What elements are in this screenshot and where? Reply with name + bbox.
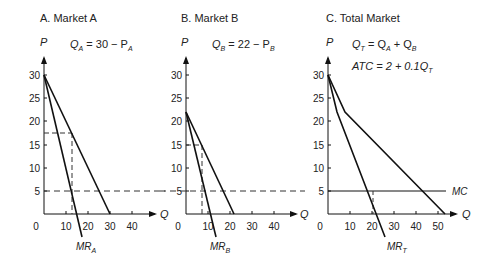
mr-curve-a <box>44 75 82 237</box>
mr-curve-b <box>186 112 216 237</box>
svg-text:10: 10 <box>29 163 41 174</box>
x-axis-label: Q <box>462 208 471 220</box>
y-axis-label: P <box>40 36 48 48</box>
panel-title: C. Total Market <box>326 12 400 24</box>
svg-text:30: 30 <box>29 70 41 81</box>
svg-text:40: 40 <box>410 221 422 232</box>
svg-text:30: 30 <box>313 70 325 81</box>
demand-curve-b <box>186 112 234 214</box>
svg-text:5: 5 <box>34 186 40 197</box>
svg-text:20: 20 <box>82 221 94 232</box>
mr-label-a: MRA <box>76 241 97 254</box>
svg-text:30: 30 <box>104 221 116 232</box>
mr-label-b: MRB <box>210 241 231 254</box>
panel-title: B. Market B <box>181 12 238 24</box>
svg-text:10: 10 <box>60 221 72 232</box>
svg-text:20: 20 <box>224 221 236 232</box>
svg-text:10: 10 <box>313 163 325 174</box>
panel-total-market: C. Total Market P QT = QA + QB ATC = 2 +… <box>313 12 471 254</box>
price-discrimination-diagram: A. Market A P QA = 30 − PA Q 30 25 20 15… <box>0 0 494 267</box>
x-axis-label: Q <box>160 208 169 220</box>
svg-text:0: 0 <box>33 221 39 232</box>
total-demand-curve <box>328 75 445 214</box>
svg-text:15: 15 <box>29 140 41 151</box>
atc-equation: ATC = 2 + 0.1QT <box>351 60 433 74</box>
svg-text:30: 30 <box>388 221 400 232</box>
x-axis-label: Q <box>300 208 309 220</box>
svg-text:40: 40 <box>126 221 138 232</box>
svg-text:15: 15 <box>171 140 183 151</box>
svg-text:10: 10 <box>171 163 183 174</box>
mr-label-total: MRT <box>387 241 408 254</box>
svg-text:0: 0 <box>175 221 181 232</box>
svg-text:5: 5 <box>318 186 324 197</box>
demand-equation: QA = 30 − PA <box>70 38 133 52</box>
panel-market-b: B. Market B P QB = 22 − PB Q 30 25 20 15… <box>160 12 309 254</box>
total-quantity-equation: QT = QA + QB <box>352 38 417 52</box>
y-axis-label: P <box>326 36 334 48</box>
demand-equation: QB = 22 − PB <box>212 38 275 52</box>
svg-text:20: 20 <box>171 116 183 127</box>
panel-title: A. Market A <box>40 12 98 24</box>
svg-text:10: 10 <box>344 221 356 232</box>
svg-text:25: 25 <box>171 93 183 104</box>
svg-text:25: 25 <box>29 93 41 104</box>
svg-text:20: 20 <box>366 221 378 232</box>
svg-text:20: 20 <box>29 116 41 127</box>
svg-text:50: 50 <box>432 221 444 232</box>
svg-text:40: 40 <box>268 221 280 232</box>
svg-text:30: 30 <box>171 70 183 81</box>
svg-text:0: 0 <box>317 221 323 232</box>
y-axis-label: P <box>181 36 189 48</box>
svg-text:30: 30 <box>246 221 258 232</box>
svg-text:15: 15 <box>313 140 325 151</box>
mr-curve-total <box>328 75 385 237</box>
mc-label: MC <box>452 186 468 197</box>
svg-text:20: 20 <box>313 116 325 127</box>
demand-curve-a <box>44 75 110 214</box>
panel-market-a: A. Market A P QA = 30 − PA Q 30 25 20 15… <box>29 12 169 254</box>
svg-text:25: 25 <box>313 93 325 104</box>
